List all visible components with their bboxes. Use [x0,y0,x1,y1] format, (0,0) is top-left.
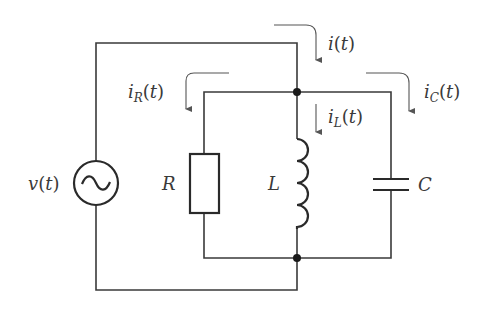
inductor-label: L [267,173,280,194]
top-junction-node [293,88,301,96]
wire-source-top [96,43,297,161]
source-label: v(t) [28,173,59,194]
circuit-diagram: v(t) R L C i(t) iR(t) iL(t) iC(t) [0,0,491,310]
resistor [190,154,219,213]
current-label-iR: iR(t) [128,81,164,105]
outer-loop-wires [96,43,297,290]
inductor-coil [297,139,308,229]
current-label-i: i(t) [328,33,355,54]
wire-source-bottom [96,205,297,290]
ac-voltage-source [74,161,118,205]
capacitor-label: C [418,174,432,195]
bottom-junction-node [293,254,301,262]
current-label-iL: iL(t) [328,106,363,130]
resistor-label: R [161,173,176,194]
current-label-iC: iC(t) [424,81,460,105]
capacitor [373,179,409,190]
current-arrow-iR [186,73,229,109]
sine-wave-icon [82,176,110,189]
